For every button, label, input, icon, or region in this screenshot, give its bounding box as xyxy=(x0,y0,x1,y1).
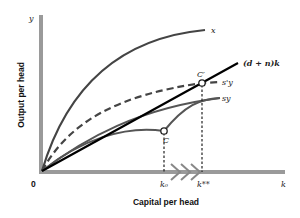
curve-x xyxy=(42,30,205,171)
tick-k-star: k** xyxy=(197,180,210,189)
label-point-C: C xyxy=(163,136,169,145)
origin-label: 0 xyxy=(31,179,36,189)
y-axis-title: Output per head xyxy=(16,62,26,128)
label-point-C-prime: C′ xyxy=(197,70,205,79)
label-line-dnk: (d + n)k xyxy=(243,58,280,68)
label-curve-s-prime-y: s'y xyxy=(222,78,233,87)
x-axis-title: Capital per head xyxy=(133,197,199,207)
tick-k0: k₀ xyxy=(160,180,169,189)
point-C-prime xyxy=(199,80,205,86)
line-dnk xyxy=(42,63,238,171)
point-C xyxy=(161,128,167,134)
y-axis-end-label: y xyxy=(28,14,34,23)
label-curve-sy: sy xyxy=(222,94,231,103)
curve-s-prime-y xyxy=(42,82,220,171)
x-axis-end-label: k xyxy=(281,180,286,189)
solow-growth-diagram: y k 0 k₀ k** x s'y sy (d + n)k C C′ Capi… xyxy=(0,0,300,218)
label-curve-x: x xyxy=(211,26,216,35)
